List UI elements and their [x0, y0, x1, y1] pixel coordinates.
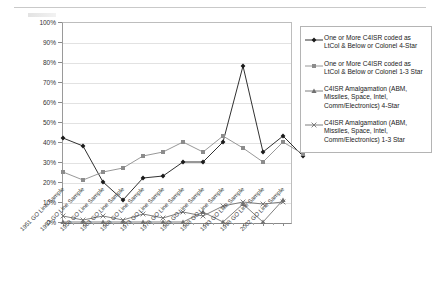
legend-entry: One or More C4ISR coded as LtCol & Below… [304, 34, 427, 51]
legend-marker-diamond-icon [304, 35, 324, 45]
x-axis-minor-tick [113, 223, 114, 225]
legend-entry: One or More C4ISR coded as LtCol & Below… [304, 60, 427, 77]
legend-entry: C4ISR Amalgamation (ABM, Missiles, Space… [304, 119, 427, 144]
chart-legend: One or More C4ISR coded as LtCol & Below… [300, 26, 432, 153]
legend-marker-triangle-icon [304, 86, 324, 96]
chart-page: 100%90%80%70%60%50%40%30%20%10%0% 1951 G… [0, 0, 439, 295]
x-axis-minor-tick [153, 223, 154, 225]
x-axis-minor-tick [73, 223, 74, 225]
x-axis-minor-tick [273, 223, 274, 225]
x-axis-minor-tick [213, 223, 214, 225]
data-point-marker [312, 64, 316, 68]
legend-entry-label: One or More C4ISR coded as LtCol & Below… [324, 34, 427, 51]
x-axis-minor-tick [253, 223, 254, 225]
legend-entry: C4ISR Amalgamation (ABM, Missiles, Space… [304, 85, 427, 110]
x-axis-minor-tick [93, 223, 94, 225]
x-axis-tick-mark [263, 223, 264, 226]
x-axis-minor-tick [233, 223, 234, 225]
legend-marker-square-icon [304, 61, 324, 71]
legend-entry-label: One or More C4ISR coded as LtCol & Below… [324, 60, 427, 77]
x-axis-minor-tick [173, 223, 174, 225]
data-point-marker [312, 38, 317, 43]
legend-entry-label: C4ISR Amalgamation (ABM, Missiles, Space… [324, 119, 427, 144]
x-axis-tick-mark [283, 223, 284, 226]
legend-entry-label: C4ISR Amalgamation (ABM, Missiles, Space… [324, 85, 427, 110]
x-axis-minor-tick [193, 223, 194, 225]
x-axis-minor-tick [133, 223, 134, 225]
legend-marker-cross-icon [304, 120, 324, 130]
